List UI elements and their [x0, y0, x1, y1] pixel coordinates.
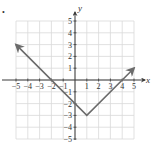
y-tick-label: −2	[63, 100, 72, 109]
axes	[2, 12, 145, 140]
y-tick-label: −4	[63, 123, 72, 132]
figure-marker: •	[2, 8, 5, 17]
y-tick-label: 1	[68, 64, 72, 73]
y-tick-label: 4	[68, 29, 72, 38]
y-tick-label: 5	[68, 17, 72, 26]
x-tick-label: 5	[132, 82, 136, 91]
x-tick-label: −3	[35, 82, 44, 91]
x-tick-label: −5	[12, 82, 21, 91]
x-tick-label: 4	[120, 82, 124, 91]
y-tick-label: 2	[68, 52, 72, 61]
y-axis-label: y	[77, 3, 82, 13]
x-axis-label: x	[145, 75, 150, 85]
x-tick-label: −4	[24, 82, 33, 91]
x-tick-label: 1	[85, 82, 89, 91]
y-tick-label: −3	[63, 111, 72, 120]
graph: • −5−4−3−2−11234554321−1−2−3−4−5 x y	[0, 0, 156, 154]
y-tick-label: −5	[63, 135, 72, 144]
y-tick-label: 3	[68, 41, 72, 50]
x-tick-label: 2	[97, 82, 101, 91]
